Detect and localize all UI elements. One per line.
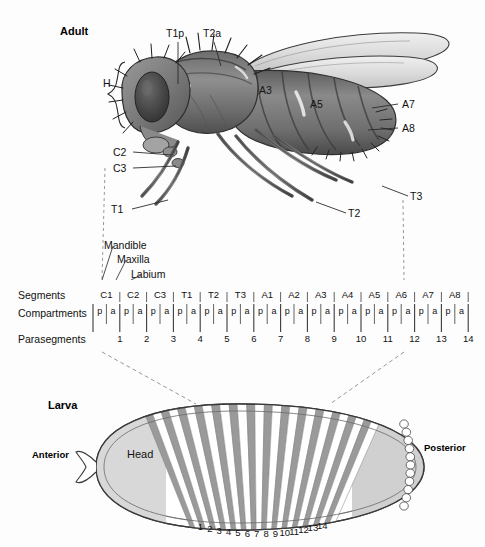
larva-parasegment-number-14: 14 bbox=[311, 520, 333, 531]
larva-parasegment-numbers: 1234567891011121314 bbox=[0, 0, 485, 547]
